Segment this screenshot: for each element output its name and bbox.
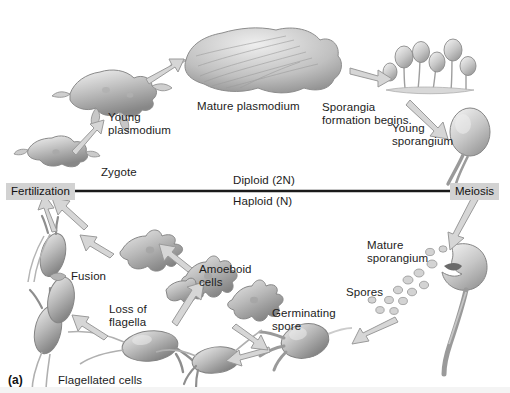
label-spores: Spores [346,286,383,299]
stage-label-meiosis: Meiosis [455,185,494,197]
arrow-flagellated-to-fusion [72,315,108,340]
arrow-meiosis-to-mature-sporangium [448,197,478,250]
arrow-amoeboid-to-fusion [80,235,114,258]
arrow-amoeboid-chain-right [232,324,268,350]
sporangia-cluster-illustration [383,39,476,94]
label-amoeboid-cells: Amoeboid cells [199,263,252,289]
stage-label-fertilization: Fertilization [11,185,70,197]
slime-mold-life-cycle-figure: Fertilization Meiosis Diploid (2N) Haplo… [0,0,510,393]
bottom-edge-band [0,387,510,393]
ploidy-label-haploid: Haploid (N) [233,195,292,208]
label-young-plasmodium: Young plasmodium [108,111,171,137]
arrow-spores-to-germinating-spore [352,317,398,344]
label-flagellated-cells: Flagellated cells [58,374,142,387]
arrow-zygote-to-young-plasmodium [72,120,104,155]
young-sporangium-illustration [448,108,490,184]
ploidy-label-diploid: Diploid (2N) [233,174,295,187]
label-zygote: Zygote [101,166,137,179]
label-young-sporangium: Young sporangium [392,122,453,148]
stage-box-meiosis[interactable]: Meiosis [450,183,499,200]
label-germinating-spore: Germinating spore [272,307,336,333]
arrow-young-to-mature-plasmodium [146,59,184,84]
label-mature-plasmodium: Mature plasmodium [197,100,300,113]
label-fusion: Fusion [71,270,106,283]
stage-box-fertilization[interactable]: Fertilization [6,183,75,200]
panel-label: (a) [8,373,23,387]
mature-plasmodium-illustration [170,28,341,93]
label-mature-sporangium: Mature sporangium [367,239,428,265]
label-loss-of-flagella: Loss of flagella [109,303,147,329]
